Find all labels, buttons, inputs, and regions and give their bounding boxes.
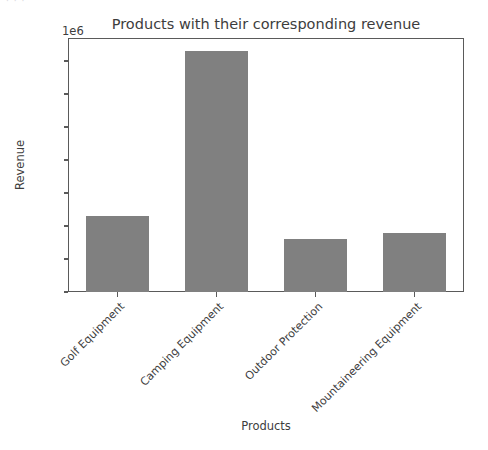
chart-title: Products with their corresponding revenu… <box>68 16 464 32</box>
y-tick-mark <box>64 126 69 127</box>
y-axis-title: Revenue <box>10 38 30 292</box>
x-tick-mark <box>315 292 316 297</box>
y-tick-mark <box>64 258 69 259</box>
clipped-text-artifact: · · · <box>6 0 25 6</box>
y-tick-mark <box>64 225 69 226</box>
y-tick-mark <box>64 159 69 160</box>
x-tick-mark <box>117 292 118 297</box>
plot-area <box>68 38 464 292</box>
x-tick-mark <box>216 292 217 297</box>
x-axis-title: Products <box>68 419 464 433</box>
y-tick-mark <box>64 60 69 61</box>
y-axis-offset-label: 1e6 <box>62 24 84 38</box>
y-tick-mark <box>64 291 69 292</box>
y-tick-mark <box>64 192 69 193</box>
x-tick-mark <box>414 292 415 297</box>
figure-canvas: · · · Products with their corresponding … <box>0 0 488 450</box>
y-tick-mark <box>64 93 69 94</box>
